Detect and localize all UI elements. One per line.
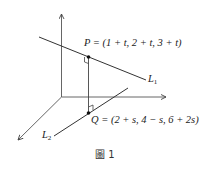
line-l2-label: L2 (42, 130, 51, 142)
diagram-canvas (0, 0, 214, 169)
point-q-dot (87, 111, 91, 115)
line-l1-subscript: 1 (154, 78, 158, 86)
point-p-dot (87, 55, 91, 59)
point-q-label: Q = (2 + s, 4 − s, 6 + 2s) (91, 115, 199, 126)
line-l2 (54, 88, 128, 136)
right-angle-mark-q (89, 105, 94, 110)
line-l1-label: L1 (148, 74, 157, 86)
figure-caption: 圖 1 (95, 146, 115, 161)
x-axis (18, 97, 62, 140)
line-l2-subscript: 2 (48, 134, 52, 142)
point-p-label: P = (1 + t, 2 + t, 3 + t) (84, 38, 182, 49)
